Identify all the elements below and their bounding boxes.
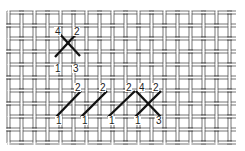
step-number-label: 1 — [55, 63, 61, 74]
stitch-lines — [55, 31, 161, 117]
step-number-label: 2 — [126, 82, 132, 93]
step-number-label: 2 — [75, 82, 81, 93]
step-number-label: 1 — [56, 115, 62, 126]
cross-stitch-canvas-diagram: 42132224211113 — [0, 0, 245, 151]
step-number-label: 1 — [135, 115, 141, 126]
step-number-label: 3 — [156, 115, 162, 126]
step-number-label: 2 — [153, 82, 159, 93]
step-number-label: 4 — [55, 26, 61, 37]
step-number-label: 4 — [139, 82, 145, 93]
step-number-label: 2 — [100, 82, 106, 93]
step-number-label: 2 — [74, 26, 80, 37]
step-number-label: 1 — [82, 115, 88, 126]
step-number-label: 1 — [109, 115, 115, 126]
canvas-mesh-grid — [6, 10, 236, 145]
step-number-label: 3 — [73, 63, 79, 74]
